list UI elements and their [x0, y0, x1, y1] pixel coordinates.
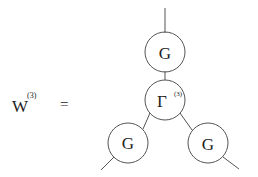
- node-top-label: G: [159, 44, 171, 63]
- external-leg-bottom-right: [223, 157, 239, 169]
- external-leg-bottom-left: [101, 157, 114, 170]
- node-center-label: Γ: [157, 92, 167, 111]
- node-bottom-right-label: G: [202, 135, 214, 154]
- node-bottom-left-label: G: [122, 134, 134, 153]
- propagator-bottom-right: [180, 113, 192, 130]
- node-center-superscript: (3): [174, 90, 183, 98]
- propagator-bottom-left: [143, 113, 150, 129]
- vertex-diagram: G Γ (3) G G: [0, 0, 258, 177]
